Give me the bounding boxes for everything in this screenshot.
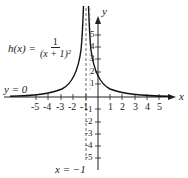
x-axis-label: x: [179, 91, 184, 102]
y-tick-label: 1: [90, 79, 95, 88]
y-tick-label: 3: [90, 54, 95, 63]
y-tick-label: -2: [85, 117, 93, 126]
x-tick-label: 3: [133, 102, 138, 112]
y-tick-label: -5: [85, 153, 93, 162]
function-denominator: (x + 1)²: [40, 48, 71, 60]
y-tick-label: 5: [90, 30, 95, 39]
graph: [0, 0, 188, 178]
horizontal-asymptote-label: y = 0: [4, 84, 27, 95]
y-axis-arrow-icon: [95, 16, 101, 24]
y-tick-label: 2: [90, 67, 95, 76]
x-tick-label: -2: [68, 102, 76, 112]
x-tick-label: 2: [120, 102, 125, 112]
x-tick-label: 1: [108, 102, 113, 112]
y-axis-label: y: [102, 6, 107, 17]
x-tick-label: -3: [56, 102, 64, 112]
x-axis-arrow-icon: [168, 94, 176, 100]
function-label: h(x) = 1 (x + 1)²: [8, 36, 71, 60]
function-numerator: 1: [51, 36, 60, 48]
y-tick-label: -3: [85, 129, 93, 138]
x-tick-label: -5: [31, 102, 39, 112]
curve-right-branch: [89, 6, 171, 96]
vertical-asymptote-label: x = −1: [55, 164, 86, 175]
y-tick-label: -4: [85, 141, 93, 150]
x-tick-label: -4: [43, 102, 51, 112]
x-tick-label: 4: [145, 102, 150, 112]
function-lhs: h(x) =: [8, 42, 36, 54]
y-tick-label: -1: [85, 105, 93, 114]
y-tick-label: 4: [90, 42, 95, 51]
x-tick-label: 5: [157, 102, 162, 112]
